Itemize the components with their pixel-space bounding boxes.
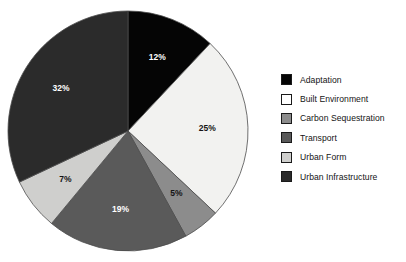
legend-item[interactable]: Carbon Sequestration bbox=[281, 109, 403, 128]
pie-slice-label: 32% bbox=[53, 83, 70, 93]
legend-swatch-icon bbox=[281, 152, 292, 163]
pie-slice-label: 12% bbox=[149, 52, 166, 62]
legend-item[interactable]: Urban Form bbox=[281, 148, 403, 167]
legend-swatch-icon bbox=[281, 94, 292, 105]
pie-chart-plot-area: 12%25%5%19%7%32% bbox=[7, 10, 249, 252]
pie-slice-label: 19% bbox=[112, 204, 129, 214]
pie-slice-label: 5% bbox=[170, 188, 183, 198]
pie-chart-svg: 12%25%5%19%7%32% bbox=[7, 10, 249, 252]
legend-item[interactable]: Transport bbox=[281, 128, 403, 147]
pie-chart-figure: 12%25%5%19%7%32% AdaptationBuilt Environ… bbox=[0, 0, 406, 262]
pie-slice-label: 7% bbox=[59, 174, 72, 184]
legend-item[interactable]: Built Environment bbox=[281, 89, 403, 108]
chart-legend: AdaptationBuilt EnvironmentCarbon Seques… bbox=[281, 70, 403, 186]
legend-item-label: Carbon Sequestration bbox=[300, 113, 385, 123]
legend-swatch-icon bbox=[281, 113, 292, 124]
legend-item-label: Urban Infrastructure bbox=[300, 172, 377, 182]
legend-item-label: Built Environment bbox=[300, 94, 368, 104]
pie-slice-label: 25% bbox=[199, 123, 216, 133]
legend-item[interactable]: Adaptation bbox=[281, 70, 403, 89]
legend-item-label: Urban Form bbox=[300, 152, 346, 162]
legend-swatch-icon bbox=[281, 132, 292, 143]
legend-swatch-icon bbox=[281, 74, 292, 85]
legend-swatch-icon bbox=[281, 171, 292, 182]
legend-item[interactable]: Urban Infrastructure bbox=[281, 167, 403, 186]
legend-item-label: Adaptation bbox=[300, 75, 342, 85]
legend-item-label: Transport bbox=[300, 133, 337, 143]
